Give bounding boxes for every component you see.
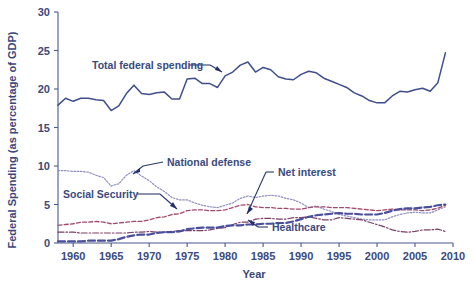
- x-tick-label: 2000: [365, 250, 389, 262]
- x-tick-label: 1960: [61, 250, 85, 262]
- x-tick-label: 1970: [137, 250, 161, 262]
- annotation-leaders: [133, 65, 274, 227]
- y-tick-label: 5: [44, 199, 50, 211]
- x-tick-label: 2005: [403, 250, 427, 262]
- y-tick-label: 20: [38, 83, 50, 95]
- x-tick-label: 1965: [99, 250, 123, 262]
- axes-lines: [58, 12, 453, 243]
- x-tick-label: 1975: [175, 250, 199, 262]
- y-tick-label: 0: [44, 237, 50, 249]
- x-tick-label: 1985: [251, 250, 275, 262]
- series-group: [58, 53, 445, 242]
- label-social-security: Social Security: [63, 188, 138, 200]
- y-tick-label: 15: [38, 122, 50, 134]
- spending-line-chart: Federal Spending (as percentage of GDP) …: [0, 0, 474, 289]
- x-tick-label: 2010: [441, 250, 465, 262]
- chart-container: Federal Spending (as percentage of GDP) …: [0, 0, 474, 289]
- x-tick-label: 1995: [327, 250, 351, 262]
- label-national-defense: National defense: [167, 156, 251, 168]
- x-axis-ticks: 1960196519701975198019851990199520002005…: [61, 243, 465, 262]
- y-axis-title: Federal Spending (as percentage of GDP): [6, 31, 18, 248]
- y-axis-ticks: 051015202530: [38, 6, 58, 249]
- y-tick-label: 30: [38, 6, 50, 18]
- y-tick-label: 10: [38, 160, 50, 172]
- x-tick-label: 1980: [213, 250, 237, 262]
- label-net-interest: Net interest: [278, 166, 336, 178]
- label-total-federal-spending: Total federal spending: [92, 59, 203, 71]
- y-tick-label: 25: [38, 45, 50, 57]
- label-healthcare: Healthcare: [272, 221, 326, 233]
- x-tick-label: 1990: [289, 250, 313, 262]
- x-axis-title: Year: [242, 268, 266, 280]
